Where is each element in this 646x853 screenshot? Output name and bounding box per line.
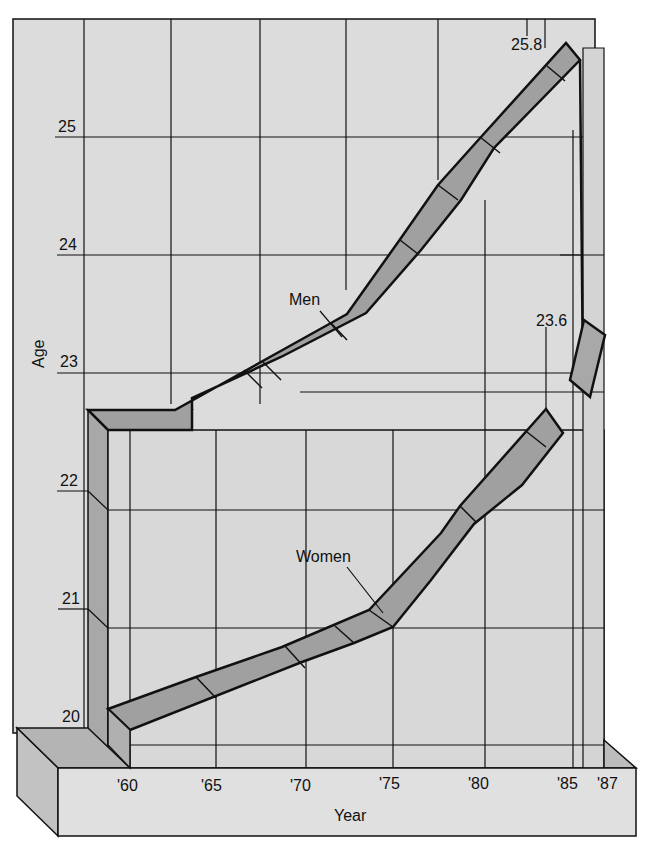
men-end-value-label: 25.8 [511,36,542,53]
x-tick-75: '75 [379,775,400,792]
women-series-label: Women [296,548,351,565]
x-tick-70: '70 [290,777,311,794]
x-tick-87: '87 [597,775,618,792]
x-tick-65: '65 [201,777,222,794]
y-tick-24: 24 [59,236,77,253]
y-tick-22: 22 [60,472,78,489]
y-tick-20: 20 [62,708,80,725]
x-axis-title: Year [334,807,367,824]
y-tick-25: 25 [58,118,76,135]
men-series-label: Men [289,291,320,308]
y-tick-21: 21 [62,590,80,607]
median-age-chart: Men Women 25.8 23.6 25 24 23 22 21 20 Ag… [0,0,646,853]
women-end-value-label: 23.6 [536,312,567,329]
x-tick-60: '60 [117,777,138,794]
y-tick-23: 23 [60,353,78,370]
x-tick-80: '80 [468,775,489,792]
y-axis-title: Age [30,339,47,368]
x-tick-85: '85 [557,775,578,792]
